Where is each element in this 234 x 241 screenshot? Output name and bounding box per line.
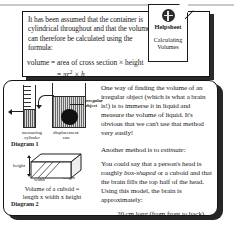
cylinder-liquid <box>24 109 35 127</box>
water-level-arrow-icon <box>9 111 23 112</box>
estimate-emphasis: estimate <box>161 146 184 154</box>
callout-leader-line <box>70 104 84 105</box>
cuboid-volume-caption-line-1: Volume of a cuboid = <box>8 185 96 193</box>
brain-dimensions-list: 20 cm long (from front to back) 17 cm wi… <box>101 210 213 216</box>
cuboid-volume-caption: Volume of a cuboid = length x width x he… <box>8 185 96 200</box>
measuring-cylinder-caption-line-2: cylinder <box>19 135 45 140</box>
assumption-text: It has been assumed that the container i… <box>28 15 156 53</box>
paragraph-estimate-heading: Another method is to estimate: <box>101 146 213 155</box>
measuring-cylinder-caption: measuring cylinder <box>19 130 45 141</box>
helpsheet-globe-icon <box>162 9 175 22</box>
paragraph-box-model: You could say that a person's head is ro… <box>101 160 213 205</box>
diagram-2-title: Diagram 2 <box>11 201 39 207</box>
helpsheet-subtitle: Calculating Volumes <box>149 36 187 51</box>
irregular-object-label-line-2: object <box>85 103 102 108</box>
irregular-object-label: irregular object <box>85 98 102 108</box>
can-liquid <box>53 96 85 127</box>
worksheet-page: It has been assumed that the container i… <box>0 0 234 241</box>
main-panel: irregular object measuring cylinder disp… <box>3 80 218 216</box>
page-fold-corner-icon <box>179 4 188 13</box>
paragraph-immersion: One way of finding the volume of an irre… <box>101 84 213 139</box>
displacement-can-caption: displacement can <box>51 130 81 141</box>
helpsheet-card: Helpsheet Calculating Volumes <box>148 4 188 62</box>
diagram-2: height width length Volume of a cuboid =… <box>8 151 98 213</box>
page-top-rule <box>0 4 234 6</box>
diagram-1-title: Diagram 1 <box>11 141 39 147</box>
explanatory-text-column: One way of finding the volume of an irre… <box>101 84 213 216</box>
helpsheet-subtitle-line-1: Calculating <box>149 36 187 43</box>
pour-spout-arrow-icon <box>38 95 54 108</box>
height-dimension-label: height <box>13 163 25 168</box>
cylinder-volume-formula: volume = area of cross section × height … <box>27 58 163 80</box>
irregular-object-shape <box>61 109 78 125</box>
list-item: 20 cm long (from front to back) <box>117 210 213 216</box>
helpsheet-subtitle-line-2: Volumes <box>149 43 187 50</box>
cuboid-volume-caption-line-2: length x width x height <box>8 193 96 201</box>
helpsheet-title: Helpsheet <box>149 23 187 31</box>
displacement-can-caption-line-2: can <box>51 135 81 140</box>
displacement-can-graphic <box>52 83 86 128</box>
diagram-1: irregular object measuring cylinder disp… <box>8 83 98 145</box>
formula-line-1: volume = area of cross section × height <box>27 58 144 67</box>
formula-line-2: = πr2 × h <box>27 68 163 80</box>
cuboid-icon <box>30 153 82 183</box>
measuring-cylinder-graphic <box>23 85 36 128</box>
box-shaped-emphasis: box-shaped <box>124 169 156 177</box>
